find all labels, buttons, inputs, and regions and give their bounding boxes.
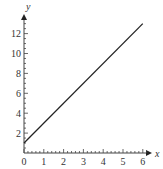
x-tick-label: 4 <box>101 156 106 167</box>
data-series <box>24 24 143 143</box>
x-tick-label: 3 <box>81 156 86 167</box>
y-tick-label: 12 <box>11 28 21 39</box>
x-tick-label: 2 <box>61 156 66 167</box>
ticks <box>24 24 147 153</box>
x-tick-label: 1 <box>41 156 46 167</box>
y-tick-label: 2 <box>16 128 21 139</box>
x-axis-label: x <box>154 148 160 159</box>
x-tick-label: 0 <box>22 156 27 167</box>
series-line <box>24 24 143 143</box>
x-tick-label: 5 <box>121 156 126 167</box>
axes <box>21 14 152 156</box>
line-chart: 012345624681012 x y <box>0 0 163 169</box>
tick-labels: 012345624681012 <box>11 28 145 167</box>
y-axis-arrow-icon <box>21 14 27 20</box>
y-tick-label: 4 <box>16 108 21 119</box>
y-tick-label: 8 <box>16 68 21 79</box>
y-tick-label: 10 <box>11 48 21 59</box>
x-tick-label: 6 <box>140 156 145 167</box>
y-tick-label: 6 <box>16 88 21 99</box>
y-axis-label: y <box>25 1 31 12</box>
